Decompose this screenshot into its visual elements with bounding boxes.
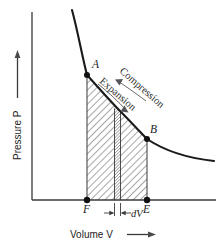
point-f-label: F	[82, 203, 91, 215]
point-e-label: E	[142, 203, 150, 215]
volume-axis-label-group: Volume V	[70, 229, 156, 240]
pv-diagram-figure: A B F E Compression Expansion dV Pr	[0, 0, 219, 246]
volume-axis-label: Volume V	[70, 229, 113, 240]
pressure-axis-label-group: Pressure P	[12, 50, 23, 160]
pressure-axis-label-arrow-head	[15, 50, 21, 58]
dv-arrow-head-right	[121, 211, 126, 215]
pv-diagram-canvas: A B F E Compression Expansion dV Pr	[0, 0, 219, 246]
point-a-dot	[84, 72, 90, 78]
dv-dimension: dV	[104, 203, 144, 219]
point-b-dot	[144, 136, 150, 142]
dv-arrow-head-left	[109, 211, 114, 215]
point-b-label: B	[150, 123, 157, 135]
pressure-axis-label: Pressure P	[12, 110, 23, 160]
volume-axis-label-arrow-head	[148, 232, 156, 238]
point-a-label: A	[91, 58, 100, 70]
dv-label: dV	[131, 208, 144, 219]
